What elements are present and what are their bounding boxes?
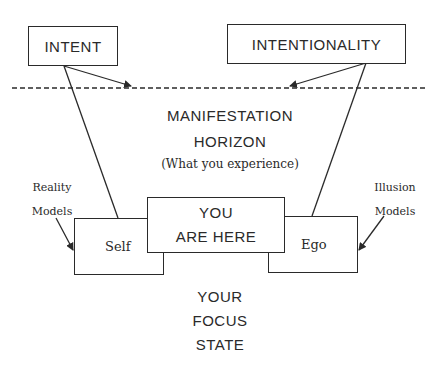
ego-label: Ego bbox=[301, 237, 327, 252]
reality-models-label: Reality Models bbox=[22, 176, 82, 224]
manifestation-horizon-title: MANIFESTATION HORIZON bbox=[130, 103, 330, 155]
illusion-models-label: Illusion Models bbox=[360, 176, 430, 224]
you-are-here-box: YOU ARE HERE bbox=[147, 197, 285, 253]
intentionality-box: INTENTIONALITY bbox=[227, 24, 406, 64]
reality-line: Reality bbox=[22, 176, 82, 200]
horizon-line-2: HORIZON bbox=[130, 129, 330, 155]
horizon-line-1: MANIFESTATION bbox=[130, 103, 330, 129]
focus-line-1: YOUR bbox=[170, 285, 270, 309]
models-line: Models bbox=[22, 200, 82, 224]
focus-line-3: STATE bbox=[170, 333, 270, 357]
intent-label: INTENT bbox=[44, 38, 101, 55]
are-here-line: ARE HERE bbox=[176, 225, 257, 249]
horizon-subtitle: (What you experience) bbox=[130, 157, 330, 171]
models-line: Models bbox=[360, 200, 430, 224]
focus-line-2: FOCUS bbox=[170, 309, 270, 333]
intent-box: INTENT bbox=[28, 26, 118, 66]
intentionality-label: INTENTIONALITY bbox=[252, 36, 382, 53]
you-line: YOU bbox=[199, 201, 233, 225]
self-label: Self bbox=[105, 239, 131, 254]
intent-to-horizon-arrow bbox=[64, 66, 131, 86]
illusion-line: Illusion bbox=[360, 176, 430, 200]
your-focus-state-label: YOUR FOCUS STATE bbox=[170, 285, 270, 357]
intentionality-to-horizon-arrow bbox=[290, 63, 366, 86]
